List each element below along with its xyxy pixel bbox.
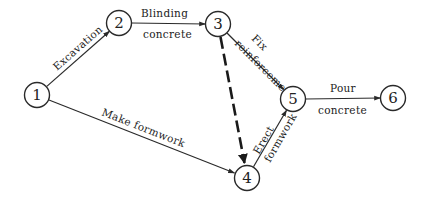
edge-label-make-formwork: Make formwork	[100, 106, 187, 150]
edge-label-concrete-2: concrete	[318, 104, 367, 116]
edge-4-5: Erect formwork	[250, 110, 299, 167]
node-4: 4	[235, 166, 260, 191]
node-label: 3	[213, 15, 223, 33]
edge-label-pour: Pour	[330, 82, 357, 94]
edge-1-2: Excavation	[47, 23, 110, 87]
node-label: 2	[114, 14, 124, 32]
edge-label-excavation: Excavation	[50, 23, 104, 73]
network-diagram: Excavation Blinding concrete Fix reinfor…	[0, 0, 428, 200]
edge-2-3: Blinding concrete	[132, 7, 206, 40]
edge-5-6: Pour concrete	[306, 82, 381, 116]
node-2: 2	[107, 11, 132, 36]
edge-3-4-dummy	[221, 37, 245, 163]
node-6: 6	[381, 86, 406, 111]
node-label: 1	[32, 86, 42, 104]
node-3: 3	[206, 12, 231, 37]
node-5: 5	[281, 87, 306, 112]
node-1: 1	[25, 83, 50, 108]
edge-1-4: Make formwork	[49, 100, 235, 173]
node-label: 6	[388, 89, 398, 107]
node-label: 5	[288, 90, 298, 108]
node-label: 4	[242, 169, 252, 187]
edge-label-concrete-1: concrete	[143, 28, 192, 40]
edge-label-blinding: Blinding	[141, 7, 188, 19]
